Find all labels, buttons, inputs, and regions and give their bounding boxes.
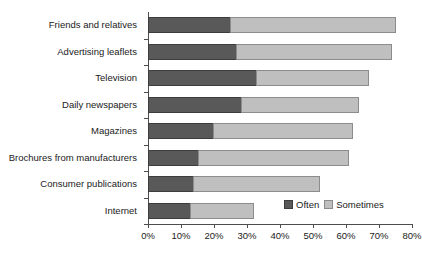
y-axis-label: Internet (105, 198, 137, 225)
stacked-bar (148, 97, 359, 113)
x-axis-tick-label: 60% (336, 230, 355, 241)
x-axis-tick-label: 20% (204, 230, 223, 241)
legend-item[interactable]: Sometimes (324, 199, 384, 210)
bar-segment-often (148, 44, 237, 60)
legend-swatch-icon (284, 200, 293, 209)
plot-area (148, 12, 412, 224)
y-axis-label: Advertising leaflets (57, 39, 137, 66)
x-axis-tick-label: 80% (402, 230, 421, 241)
stacked-bar (148, 17, 396, 33)
legend-swatch-icon (324, 200, 333, 209)
bar-segment-often (148, 150, 199, 166)
bar-segment-often (148, 176, 194, 192)
x-axis-tick-mark (247, 224, 248, 228)
legend-label: Often (296, 199, 319, 210)
bar-row (148, 12, 412, 39)
x-axis-tick-mark (379, 224, 380, 228)
bar-row (148, 118, 412, 145)
x-axis-tick-mark (181, 224, 182, 228)
stacked-bar (148, 70, 369, 86)
stacked-bar (148, 150, 349, 166)
legend-item[interactable]: Often (284, 199, 319, 210)
x-axis-tick-mark (346, 224, 347, 228)
bar-segment-often (148, 203, 191, 219)
x-axis-tick-mark (412, 224, 413, 228)
x-axis-tick-label: 70% (369, 230, 388, 241)
y-axis-label: Brochures from manufacturers (9, 145, 137, 172)
y-axis-label: Friends and relatives (49, 12, 137, 39)
bar-row (148, 171, 412, 198)
bar-segment-sometimes (241, 97, 359, 113)
bar-segment-sometimes (193, 176, 319, 192)
bar-segment-often (148, 97, 242, 113)
legend-label: Sometimes (336, 199, 384, 210)
bar-rows (148, 12, 412, 224)
bar-segment-often (148, 17, 231, 33)
y-axis-label: Television (95, 65, 137, 92)
bar-segment-sometimes (190, 203, 254, 219)
x-axis-tick-mark (148, 224, 149, 228)
y-axis-label: Daily newspapers (62, 92, 137, 119)
x-axis-tick-label: 10% (171, 230, 190, 241)
bar-segment-sometimes (198, 150, 349, 166)
stacked-bar (148, 123, 353, 139)
x-axis-tick-label: 40% (270, 230, 289, 241)
stacked-bar (148, 176, 320, 192)
x-axis-tick-mark (280, 224, 281, 228)
bar-segment-sometimes (236, 44, 392, 60)
bar-row (148, 39, 412, 66)
bar-segment-sometimes (256, 70, 369, 86)
stacked-bar (148, 44, 392, 60)
bar-segment-often (148, 123, 214, 139)
bar-row (148, 145, 412, 172)
x-axis-tick-mark (313, 224, 314, 228)
x-axis-tick-label: 30% (237, 230, 256, 241)
bar-segment-sometimes (213, 123, 353, 139)
stacked-bar (148, 203, 254, 219)
chart-legend: OftenSometimes (282, 196, 386, 212)
x-axis-tick-mark (214, 224, 215, 228)
y-axis-label: Magazines (91, 118, 137, 145)
bar-row (148, 92, 412, 119)
x-axis-ticks: 0%10%20%30%40%50%60%70%80% (148, 224, 418, 250)
x-axis-tick-label: 0% (141, 230, 155, 241)
bar-row (148, 65, 412, 92)
x-axis-tick-label: 50% (303, 230, 322, 241)
y-axis-category-labels: Friends and relativesAdvertising leaflet… (0, 12, 144, 224)
bar-segment-often (148, 70, 257, 86)
bar-segment-sometimes (230, 17, 396, 33)
y-axis-label: Consumer publications (40, 171, 137, 198)
